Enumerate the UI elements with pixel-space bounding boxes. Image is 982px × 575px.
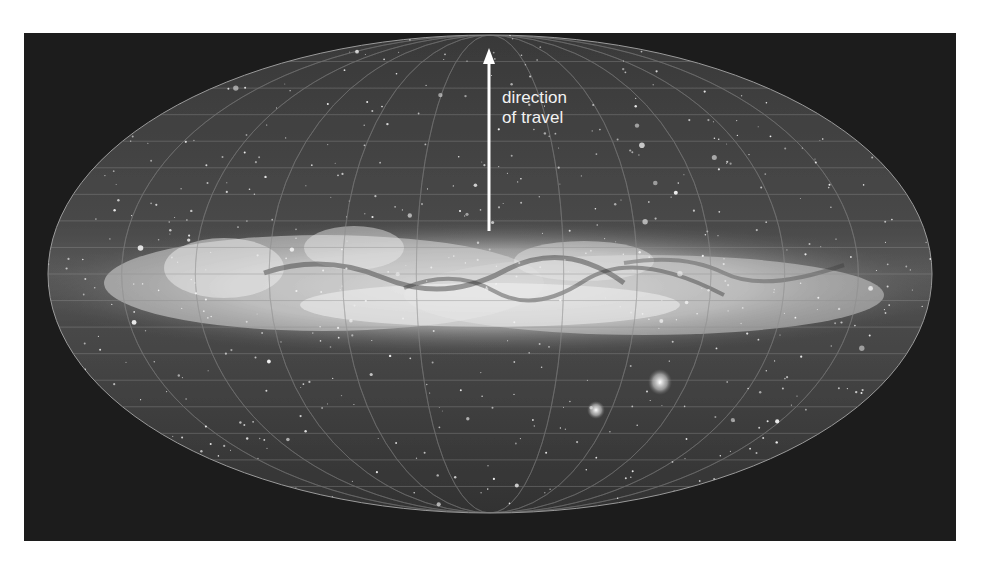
- label-line-2: of travel: [502, 108, 567, 128]
- small-magellanic-cloud: [587, 401, 605, 419]
- direction-of-travel-label: direction of travel: [502, 88, 567, 128]
- sky-map-panel: direction of travel: [24, 33, 956, 541]
- milky-way-band: [24, 218, 956, 358]
- large-magellanic-cloud: [648, 369, 672, 395]
- all-sky-map: [24, 33, 956, 541]
- label-line-1: direction: [502, 88, 567, 108]
